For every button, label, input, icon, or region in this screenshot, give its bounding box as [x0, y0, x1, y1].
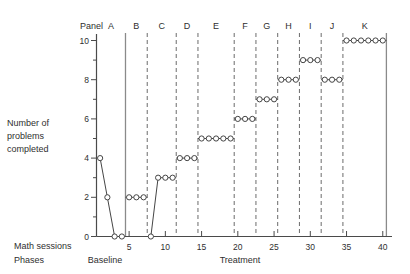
data-point — [300, 58, 305, 63]
data-point — [119, 234, 124, 239]
data-point — [242, 116, 247, 121]
phase-boundary-lines — [125, 33, 386, 237]
y-tick-label: 8 — [84, 75, 89, 85]
data-point — [199, 136, 204, 141]
x-axis-label: Math sessions — [14, 241, 72, 251]
panel-letters: ABCDEFGHIJK — [108, 21, 368, 31]
data-point — [257, 97, 262, 102]
data-point — [279, 77, 284, 82]
data-point — [308, 58, 313, 63]
y-tick-label: 6 — [84, 114, 89, 124]
panel-label-J: J — [330, 21, 335, 31]
data-point — [192, 156, 197, 161]
data-point — [322, 77, 327, 82]
y-axis-label-line-1: Number of — [7, 118, 50, 128]
data-point — [105, 195, 110, 200]
x-tick-label: 20 — [233, 242, 243, 252]
panel-row-title: Panel — [80, 21, 103, 31]
y-tick-label: 10 — [80, 36, 90, 46]
axes: 0246810510152025303540 — [80, 34, 392, 252]
y-tick-label: 0 — [84, 232, 89, 242]
data-point — [337, 77, 342, 82]
data-point — [271, 97, 276, 102]
x-tick-label: 40 — [378, 242, 388, 252]
panel-A-line — [100, 158, 125, 236]
phases-row-title: Phases — [14, 255, 45, 265]
panel-label-K: K — [362, 21, 368, 31]
data-point — [366, 38, 371, 43]
data-point — [213, 136, 218, 141]
x-tick-label: 5 — [127, 242, 132, 252]
data-point — [315, 58, 320, 63]
panel-label-D: D — [184, 21, 191, 31]
panel-label-H: H — [285, 21, 292, 31]
data-point — [221, 136, 226, 141]
data-point — [112, 234, 117, 239]
panel-label-C: C — [158, 21, 165, 31]
data-point — [264, 97, 269, 102]
data-point — [358, 38, 363, 43]
phase-label-baseline: Baseline — [88, 255, 123, 265]
panel-label-F: F — [242, 21, 248, 31]
data-point — [170, 175, 175, 180]
data-point — [250, 116, 255, 121]
panel-label-B: B — [133, 21, 139, 31]
panel-label-E: E — [213, 21, 219, 31]
data-point — [329, 77, 334, 82]
data-point — [148, 234, 153, 239]
data-point — [184, 156, 189, 161]
data-point — [380, 38, 385, 43]
data-point — [134, 195, 139, 200]
data-point — [373, 38, 378, 43]
x-tick-label: 10 — [161, 242, 171, 252]
changing-criterion-design-figure: 0246810510152025303540 ABCDEFGHIJK Panel… — [0, 0, 410, 274]
data-point — [127, 195, 132, 200]
data-point — [344, 38, 349, 43]
data-point — [235, 116, 240, 121]
data-point — [177, 156, 182, 161]
panel-label-I: I — [309, 21, 312, 31]
data-point — [163, 175, 168, 180]
panel-C-line — [147, 178, 176, 237]
phase-label-treatment: Treatment — [220, 255, 261, 265]
y-axis-label-line-2: problems — [7, 131, 45, 141]
y-axis-label-line-3: completed — [7, 144, 49, 154]
data-point — [141, 195, 146, 200]
y-tick-label: 2 — [84, 192, 89, 202]
data-point — [293, 77, 298, 82]
x-tick-label: 30 — [306, 242, 316, 252]
data-point — [98, 156, 103, 161]
x-tick-label: 25 — [269, 242, 279, 252]
x-tick-label: 35 — [342, 242, 352, 252]
chart-canvas: 0246810510152025303540 ABCDEFGHIJK Panel… — [0, 0, 410, 274]
data-point — [286, 77, 291, 82]
data-point — [228, 136, 233, 141]
panel-label-A: A — [108, 21, 114, 31]
y-tick-label: 4 — [84, 153, 89, 163]
data-point — [351, 38, 356, 43]
panel-label-G: G — [263, 21, 270, 31]
data-point — [206, 136, 211, 141]
data-point — [156, 175, 161, 180]
x-tick-label: 15 — [197, 242, 207, 252]
